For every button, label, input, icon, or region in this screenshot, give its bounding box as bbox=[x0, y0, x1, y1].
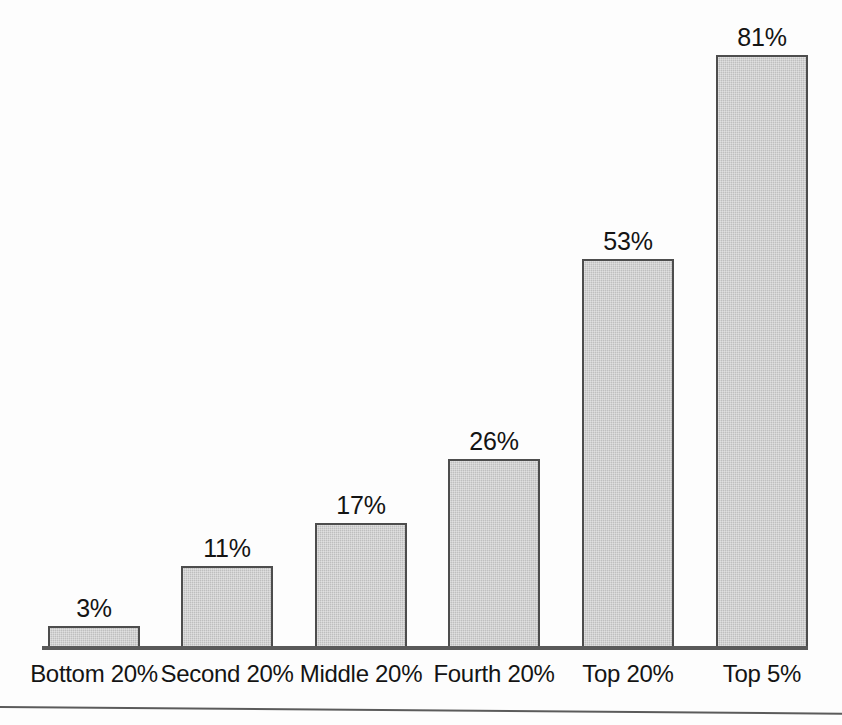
bar-rect[interactable] bbox=[582, 259, 674, 650]
bar-value-label: 3% bbox=[76, 594, 112, 622]
plot-area: 3% 11% 17% 26% 53% 81% bbox=[0, 0, 842, 650]
bar-value-label: 26% bbox=[469, 427, 518, 455]
bar-value-label: 11% bbox=[203, 534, 251, 562]
bar-value-label: 81% bbox=[737, 23, 786, 51]
bar-value-label: 17% bbox=[336, 491, 385, 519]
x-tick-label-top-5: Top 5% bbox=[672, 658, 842, 690]
bar-chart-figure: 3% 11% 17% 26% 53% 81% Bot bbox=[0, 0, 842, 725]
bar-rect[interactable] bbox=[448, 459, 540, 650]
bar-rect[interactable] bbox=[181, 566, 273, 650]
bar-rect[interactable] bbox=[716, 55, 808, 650]
x-axis-tick-labels: Bottom 20% Second 20% Middle 20% Fourth … bbox=[0, 658, 842, 698]
bar-value-label: 53% bbox=[603, 227, 652, 255]
bar-rect[interactable] bbox=[315, 523, 407, 650]
page-bottom-rule bbox=[0, 702, 842, 716]
x-axis-line bbox=[42, 646, 808, 650]
